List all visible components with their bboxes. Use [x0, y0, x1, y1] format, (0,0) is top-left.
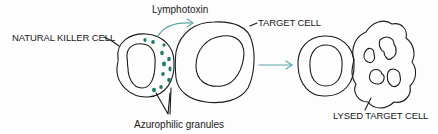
azurophilic-granules-label: Azurophilic granules: [134, 120, 224, 130]
nk-cell-after-shape: [298, 36, 354, 96]
target-cell-label: TARGET CELL: [258, 18, 321, 28]
azurophilic-granules: [143, 38, 171, 92]
nk-cell-lysis-diagram: NATURAL KILLER CELL Lymphotoxin TARGET C…: [0, 0, 438, 134]
target-cell-shape: [175, 22, 254, 103]
transition-arrow: [259, 61, 292, 69]
natural-killer-cell-label: NATURAL KILLER CELL: [12, 33, 115, 43]
lymphotoxin-label: Lymphotoxin: [152, 5, 208, 15]
granules-leader-lines: [156, 93, 170, 114]
lymphotoxin-arrow: [158, 19, 193, 36]
lysed-target-cell-label: LYSED TARGET CELL: [333, 111, 428, 121]
lysed-target-cell-shape: [352, 21, 416, 108]
target-leader-line: [250, 23, 257, 26]
